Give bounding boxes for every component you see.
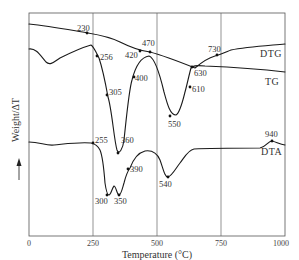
x-tick-750: 750 bbox=[215, 239, 227, 248]
annotation-550: 550 bbox=[168, 119, 181, 129]
y-axis-title: Weight/ΔT bbox=[10, 98, 21, 142]
x-tick-250: 250 bbox=[87, 239, 99, 248]
tg-label: TG bbox=[265, 76, 279, 87]
annotation-470: 470 bbox=[142, 38, 155, 48]
annotation-300: 300 bbox=[95, 196, 108, 206]
annotation-940: 940 bbox=[265, 129, 278, 139]
annotation-360: 360 bbox=[121, 135, 134, 145]
annotation-730: 730 bbox=[208, 44, 221, 54]
annotation-305: 305 bbox=[109, 87, 122, 97]
annotation-350: 350 bbox=[114, 196, 127, 206]
annotation-255: 255 bbox=[95, 135, 108, 145]
arrow-up-icon bbox=[17, 158, 22, 180]
annotation-630: 630 bbox=[194, 68, 207, 78]
x-axis-title: Temperature (°C) bbox=[122, 249, 192, 260]
annotation-256: 256 bbox=[100, 52, 113, 62]
annotation-markers bbox=[86, 32, 274, 197]
x-tick-1000: 1000 bbox=[273, 239, 289, 248]
dta-label: DTA bbox=[261, 146, 283, 157]
dtg-label: DTG bbox=[260, 48, 282, 59]
annotation-390: 390 bbox=[130, 164, 143, 174]
annotation-420: 420 bbox=[125, 50, 138, 60]
annotation-230: 230 bbox=[77, 23, 90, 33]
annotation-400: 400 bbox=[135, 73, 148, 83]
x-tick-0: 0 bbox=[27, 239, 31, 248]
annotation-610: 610 bbox=[192, 84, 205, 94]
thermal-analysis-chart: 230 420 470 730 256 305 360 400 550 610 … bbox=[0, 0, 299, 260]
annotation-540: 540 bbox=[159, 179, 172, 189]
x-tick-500: 500 bbox=[151, 239, 163, 248]
